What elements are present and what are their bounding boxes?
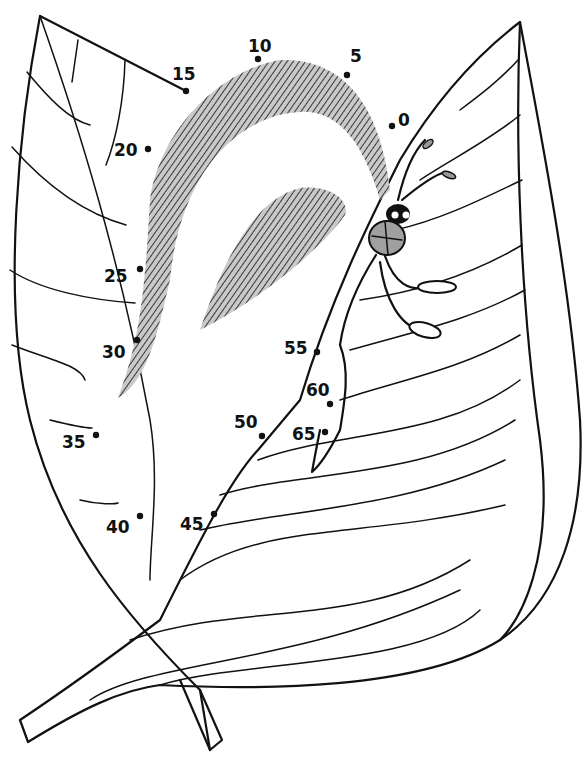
puzzle-canvas: 05101520253035404550556065 xyxy=(0,0,587,765)
dot-marker[interactable] xyxy=(211,511,217,517)
dot-number-label: 50 xyxy=(234,412,258,432)
dot-60[interactable]: 60 xyxy=(306,380,333,407)
dot-marker[interactable] xyxy=(389,123,395,129)
dot-40[interactable]: 40 xyxy=(106,513,143,537)
dot-15[interactable]: 15 xyxy=(172,64,196,94)
dot-marker[interactable] xyxy=(344,72,350,78)
dot-marker[interactable] xyxy=(314,349,320,355)
dot-number-label: 10 xyxy=(248,36,272,56)
dot-35[interactable]: 35 xyxy=(62,432,99,452)
dot-10[interactable]: 10 xyxy=(248,36,272,62)
dot-number-label: 0 xyxy=(398,110,410,130)
dot-marker[interactable] xyxy=(145,146,151,152)
dot-number-label: 25 xyxy=(104,266,128,286)
dot-marker[interactable] xyxy=(255,56,261,62)
dot-marker[interactable] xyxy=(259,433,265,439)
dot-marker[interactable] xyxy=(137,513,143,519)
front-leaf xyxy=(20,22,581,742)
dot-marker[interactable] xyxy=(137,266,143,272)
dot-50[interactable]: 50 xyxy=(234,412,265,439)
dot-marker[interactable] xyxy=(183,88,189,94)
dot-number-label: 35 xyxy=(62,432,86,452)
dot-0[interactable]: 0 xyxy=(389,110,410,130)
dot-marker[interactable] xyxy=(322,429,328,435)
dot-number-label: 60 xyxy=(306,380,330,400)
dot-45[interactable]: 45 xyxy=(180,511,217,534)
dot-number-label: 45 xyxy=(180,514,204,534)
dot-number-label: 55 xyxy=(284,338,308,358)
dot-number-label: 5 xyxy=(350,46,362,66)
dot-number-label: 30 xyxy=(102,342,126,362)
dot-number-label: 65 xyxy=(292,424,316,444)
dot-marker[interactable] xyxy=(327,401,333,407)
dot-marker[interactable] xyxy=(134,337,140,343)
hatched-shading xyxy=(118,60,390,398)
dot-20[interactable]: 20 xyxy=(114,140,151,160)
dot-number-label: 40 xyxy=(106,517,130,537)
dot-5[interactable]: 5 xyxy=(344,46,362,78)
dot-65[interactable]: 65 xyxy=(292,424,328,444)
dot-marker[interactable] xyxy=(93,432,99,438)
dot-25[interactable]: 25 xyxy=(104,266,143,286)
dot-number-label: 15 xyxy=(172,64,196,84)
dot-number-label: 20 xyxy=(114,140,138,160)
